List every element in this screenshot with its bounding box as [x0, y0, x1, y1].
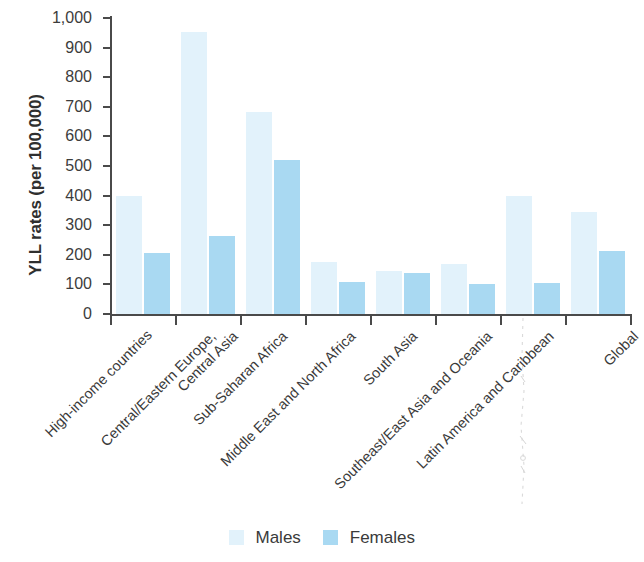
- y-tick-label: 700: [0, 98, 92, 116]
- y-tick-label: 300: [0, 216, 92, 234]
- legend-swatch-females-icon: [323, 530, 338, 545]
- bar-females: [144, 253, 170, 314]
- x-tick-mark: [435, 316, 437, 325]
- bar-females: [599, 251, 625, 314]
- bar-females: [534, 283, 560, 314]
- bar-females: [209, 236, 235, 314]
- legend-label-females: Females: [350, 528, 415, 548]
- bar-males: [311, 262, 337, 314]
- bar-males: [571, 212, 597, 314]
- legend-item-males: Males: [229, 528, 301, 548]
- x-tick-mark: [175, 316, 177, 325]
- bar-males: [376, 271, 402, 314]
- y-tick-label: 800: [0, 68, 92, 86]
- bar-females: [274, 160, 300, 314]
- y-tick-label: 500: [0, 157, 92, 175]
- x-tick-mark: [630, 316, 632, 325]
- y-tick-label: 600: [0, 127, 92, 145]
- x-tick-mark: [565, 316, 567, 325]
- bar-females: [339, 282, 365, 314]
- x-tick-mark: [370, 316, 372, 325]
- bar-females: [404, 273, 430, 314]
- bar-females: [469, 284, 495, 314]
- bar-males: [116, 196, 142, 314]
- x-tick-mark: [500, 316, 502, 325]
- bar-males: [441, 264, 467, 314]
- x-tick-mark: [240, 316, 242, 325]
- plot-area: [110, 18, 630, 314]
- legend: Males Females: [0, 528, 644, 548]
- y-tick-label: 400: [0, 187, 92, 205]
- y-tick-label: 200: [0, 246, 92, 264]
- legend-swatch-males-icon: [229, 530, 244, 545]
- bar-males: [181, 32, 207, 314]
- bar-males: [246, 112, 272, 314]
- bar-males: [506, 196, 532, 314]
- y-tick-label: 0: [0, 305, 92, 323]
- y-tick-label: 1,000: [0, 9, 92, 27]
- x-tick-mark: [305, 316, 307, 325]
- x-tick-mark: [110, 316, 112, 325]
- yll-rates-bar-chart: YLL rates (per 100,000) 0100200300400500…: [0, 0, 644, 562]
- y-tick-label: 100: [0, 275, 92, 293]
- legend-label-males: Males: [256, 528, 301, 548]
- legend-item-females: Females: [323, 528, 415, 548]
- y-tick-label: 900: [0, 39, 92, 57]
